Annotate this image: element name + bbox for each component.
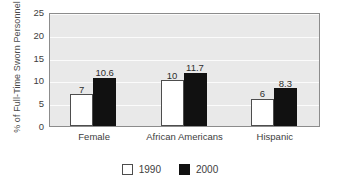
- legend-item-2000: 2000: [179, 164, 218, 175]
- bar-value-label: 10: [167, 71, 178, 81]
- bar-chart: % of Full-Time Sworn Personnel 051015202…: [0, 0, 340, 190]
- legend-label-2000: 2000: [196, 165, 218, 175]
- x-axis-label-hispanic: Hispanic: [257, 131, 293, 142]
- bar-2000-hispanic: 8.3: [274, 88, 297, 126]
- bar-1990-hispanic: 6: [251, 99, 274, 126]
- bar-1990-female: 7: [70, 94, 93, 126]
- y-axis-tick-labels: 0510152025: [20, 13, 44, 127]
- legend: 19902000: [0, 164, 340, 175]
- y-axis-tick: 25: [20, 8, 44, 18]
- y-axis-tick: 0: [20, 122, 44, 132]
- legend-swatch-2000: [179, 164, 190, 175]
- legend-label-1990: 1990: [139, 165, 161, 175]
- y-axis-tick: 15: [20, 54, 44, 64]
- bar-2000-female: 10.6: [93, 78, 116, 126]
- bar-value-label: 7: [79, 85, 84, 95]
- x-axis-label-female: Female: [78, 131, 110, 142]
- x-axis-category-labels: FemaleAfrican AmericansHispanic: [49, 131, 320, 147]
- y-axis-tick: 20: [20, 31, 44, 41]
- bar-2000-african-americans: 11.7: [184, 73, 207, 126]
- legend-swatch-1990: [122, 164, 133, 175]
- bar-value-label: 6: [260, 89, 265, 99]
- bar-value-label: 10.6: [95, 68, 114, 78]
- bar-value-label: 8.3: [279, 79, 292, 89]
- x-axis-label-african-americans: African Americans: [146, 131, 223, 142]
- bars-layer: 710.61011.768.3: [50, 14, 319, 126]
- legend-item-1990: 1990: [122, 164, 161, 175]
- bar-value-label: 11.7: [186, 63, 204, 73]
- y-axis-tick: 5: [20, 99, 44, 109]
- y-axis-tick: 10: [20, 77, 44, 87]
- bar-1990-african-americans: 10: [161, 80, 184, 126]
- plot-area: 710.61011.768.3: [49, 13, 320, 127]
